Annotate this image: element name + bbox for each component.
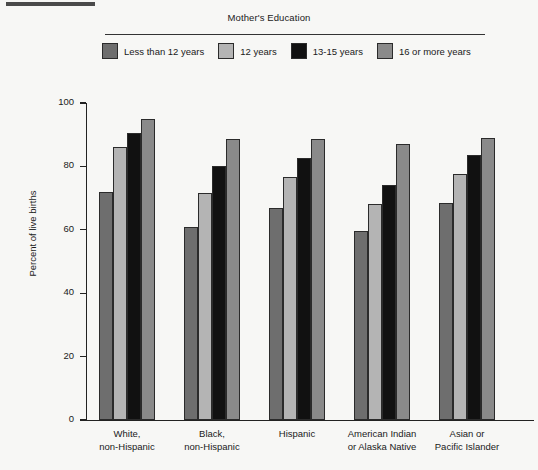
y-axis-tick-label: 20 — [0, 350, 85, 361]
bar — [212, 166, 226, 420]
bar — [113, 147, 127, 420]
bar — [269, 208, 283, 420]
y-axis-tick-label: 80 — [0, 159, 85, 170]
bar — [184, 227, 198, 420]
y-axis-tick-label: 0 — [0, 413, 85, 424]
x-axis-category-label: Asian orPacific Islander — [407, 428, 527, 453]
y-axis-tick-label: 40 — [0, 286, 85, 297]
bar — [354, 231, 368, 420]
bar — [467, 155, 481, 420]
bar — [297, 158, 311, 420]
y-axis-tick-label: 60 — [0, 223, 85, 234]
bar — [396, 144, 410, 420]
category-label-line: Asian or — [407, 428, 527, 441]
y-axis-tick-label: 100 — [0, 96, 85, 107]
x-axis-line — [86, 420, 534, 421]
category-label-line: Pacific Islander — [407, 441, 527, 454]
bar — [226, 139, 240, 420]
bar — [198, 193, 212, 420]
bar — [481, 138, 495, 420]
chart-page: Mother's Education Less than 12 years12 … — [0, 0, 538, 470]
plot-area: Percent of live births 020406080100 Whit… — [0, 0, 538, 470]
bar — [382, 185, 396, 420]
bar — [439, 203, 453, 420]
bar — [141, 119, 155, 420]
bar — [127, 133, 141, 420]
bar — [99, 192, 113, 420]
bar — [453, 174, 467, 420]
bar — [283, 177, 297, 420]
bar — [311, 139, 325, 420]
y-axis-line — [86, 103, 87, 421]
category-label-line: non-Hispanic — [152, 441, 272, 454]
bar — [368, 204, 382, 420]
